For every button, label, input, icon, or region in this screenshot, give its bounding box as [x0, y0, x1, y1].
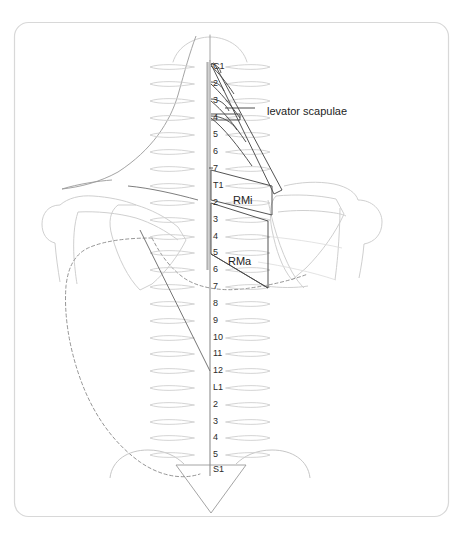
vertebra-label-2: 2: [213, 78, 218, 88]
rhomboid-major-label: RMa: [228, 255, 252, 267]
vertebra-label-4: 4: [213, 231, 218, 241]
vertebra-label-c1: C1: [213, 61, 225, 71]
vertebra-label-t1: T1: [213, 180, 224, 190]
rhomboid-minor-label: RMi: [233, 194, 253, 206]
vertebra-label-3: 3: [213, 416, 218, 426]
vertebra-label-5: 5: [213, 247, 218, 257]
vertebra-label-8: 8: [213, 298, 218, 308]
vertebra-label-s1: S1: [213, 464, 224, 474]
vertebra-label-5: 5: [213, 129, 218, 139]
vertebra-label-5: 5: [213, 449, 218, 459]
vertebra-label-9: 9: [213, 315, 218, 325]
vertebra-label-3: 3: [213, 95, 218, 105]
vertebra-label-11: 11: [213, 348, 222, 358]
vertebra-label-4: 4: [213, 112, 218, 122]
levator-scapulae-label: levator scapulae: [267, 105, 347, 117]
vertebra-label-l1: L1: [213, 382, 223, 392]
vertebra-label-6: 6: [213, 146, 218, 156]
vertebra-label-7: 7: [213, 163, 218, 173]
vertebra-label-4: 4: [213, 432, 218, 442]
vertebra-label-6: 6: [213, 264, 218, 274]
vertebra-label-12: 12: [213, 365, 223, 375]
anatomy-diagram-svg: C1234567T123456789101112L12345S1 levator…: [0, 0, 463, 546]
vertebra-label-2: 2: [213, 197, 218, 207]
anatomy-figure-root: C1234567T123456789101112L12345S1 levator…: [0, 0, 463, 546]
vertebra-label-10: 10: [213, 332, 223, 342]
vertebra-label-7: 7: [213, 281, 218, 291]
vertebra-label-2: 2: [213, 399, 218, 409]
vertebra-label-3: 3: [213, 214, 218, 224]
